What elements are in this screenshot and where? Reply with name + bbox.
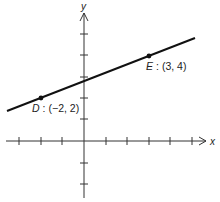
coordinate-plane-figure: x y D:(−2, 2) E:(3, 4) xyxy=(0,0,220,202)
point-e-marker xyxy=(147,54,152,59)
x-axis-label: x xyxy=(209,136,216,147)
point-d-label: D:(−2, 2) xyxy=(32,102,79,114)
coordinate-plane: x y D:(−2, 2) E:(3, 4) xyxy=(0,0,220,202)
y-axis-label: y xyxy=(80,1,87,12)
line-de xyxy=(7,38,195,111)
y-axis: y xyxy=(80,1,88,198)
x-axis: x xyxy=(6,136,216,147)
point-d-marker xyxy=(39,96,44,101)
point-e-label: E:(3, 4) xyxy=(146,60,186,72)
